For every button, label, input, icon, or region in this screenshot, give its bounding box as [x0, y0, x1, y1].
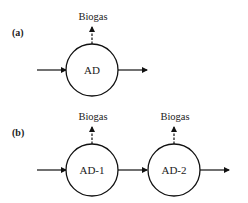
panel-b: (b) AD-1 Biogas AD-2 Biogas	[12, 111, 229, 196]
node-label-ad-1: AD-1	[79, 164, 104, 176]
node-label-ad: AD	[84, 64, 100, 76]
biogas-label: Biogas	[160, 111, 189, 122]
node-label-ad-2: AD-2	[161, 164, 186, 176]
panel-label-b: (b)	[12, 127, 24, 139]
biogas-label: Biogas	[78, 11, 107, 22]
panel-label-a: (a)	[12, 27, 24, 39]
panel-a: (a) AD Biogas	[12, 11, 147, 96]
biogas-label: Biogas	[78, 111, 107, 122]
diagram-canvas: (a) AD Biogas (b) AD-1 Biogas AD-2 Bioga…	[0, 0, 248, 203]
